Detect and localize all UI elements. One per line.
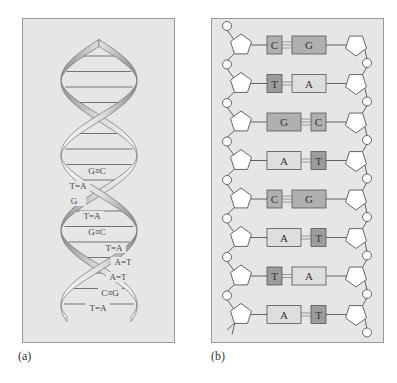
base-letter-right: T (315, 155, 322, 167)
base-letter-right: T (315, 309, 322, 321)
panel-b-ladder-diagram: CGTAGCATCGATTAAT (211, 18, 384, 343)
base-letter-left: T (271, 78, 278, 90)
base-letter-left: G (280, 116, 288, 128)
base-pair-label: G≡C (88, 227, 106, 237)
ladder-shapes: CGTAGCATCGATTAAT (231, 34, 367, 326)
base-pair-label: G (71, 196, 78, 206)
base-pair-row: CG (231, 34, 367, 56)
base-letter-left: A (280, 232, 288, 244)
sugar-pentagon-right (346, 75, 367, 95)
base-pair-label: G≡C (88, 166, 106, 176)
sugar-pentagon-left (231, 265, 252, 285)
base-pair-label: A=T (114, 257, 132, 267)
dna-ladder-illustration: CGTAGCATCGATTAAT (212, 19, 385, 344)
sugar-pentagon-left (231, 304, 252, 324)
base-letter-right: T (315, 232, 322, 244)
sugar-pentagon-right (346, 152, 367, 172)
sugar-pentagon-left (231, 34, 252, 54)
base-pair-label: C≡G (101, 288, 119, 298)
base-pair-row: AT (231, 304, 367, 326)
phosphate-left (223, 176, 232, 185)
base-pair-row: CG (231, 188, 367, 210)
phosphate-left (223, 291, 232, 300)
caption-b: (b) (211, 349, 225, 364)
sugar-pentagon-right (346, 36, 367, 56)
base-letter-left: C (271, 39, 278, 51)
phosphate-right (363, 251, 372, 260)
base-pair-row: AT (231, 227, 367, 249)
base-pair-row: GC (231, 111, 367, 133)
phosphate-right (363, 97, 372, 106)
panel-a-double-helix: G≡CT=AGT=AG≡CT=AA=TA=TC≡GT=A (22, 18, 175, 343)
phosphate-left (223, 214, 232, 223)
sugar-pentagon-right (346, 267, 367, 287)
sugar-pentagon-right (346, 113, 367, 133)
base-pair-row: TA (231, 73, 367, 95)
sugar-pentagon-left (231, 188, 252, 208)
base-letter-left: C (271, 193, 278, 205)
base-pair-row: AT (231, 150, 367, 172)
sugar-pentagon-right (346, 229, 367, 249)
phosphate-right (363, 59, 372, 68)
phosphate-right (363, 174, 372, 183)
sugar-pentagon-left (231, 227, 252, 247)
phosphate-left (223, 22, 232, 31)
base-letter-left: A (280, 309, 288, 321)
base-letter-right: C (315, 116, 322, 128)
phosphate-right (363, 328, 372, 337)
phosphate-left (223, 253, 232, 262)
base-pair-label: T=A (105, 243, 123, 253)
phosphate-left (223, 60, 232, 69)
base-letter-right: G (305, 193, 313, 205)
phosphate-circles (223, 22, 372, 338)
double-helix-illustration: G≡CT=AGT=AG≡CT=AA=TA=TC≡GT=A (23, 19, 176, 344)
base-letter-right: A (305, 78, 313, 90)
sugar-pentagon-right (346, 306, 367, 326)
sugar-pentagon-left (231, 150, 252, 170)
phosphate-right (363, 213, 372, 222)
sugar-pentagon-left (231, 73, 252, 93)
sugar-pentagon-right (346, 190, 367, 210)
phosphate-right (363, 136, 372, 145)
base-pair-row: TA (231, 265, 367, 287)
base-pair-label: T=A (69, 181, 87, 191)
base-pair-label: T=A (83, 211, 101, 221)
base-letter-left: A (280, 155, 288, 167)
base-letter-right: G (305, 39, 313, 51)
sugar-pentagon-left (231, 111, 252, 131)
base-pair-label: T=A (89, 303, 107, 313)
base-letter-right: A (305, 270, 313, 282)
base-letter-left: T (271, 270, 278, 282)
phosphate-left (223, 99, 232, 108)
phosphate-right (363, 290, 372, 299)
base-pair-label: A=T (109, 272, 127, 282)
phosphate-left (223, 137, 232, 146)
base-pair-labels: G≡CT=AGT=AG≡CT=AA=TA=TC≡GT=A (62, 166, 135, 313)
caption-a: (a) (18, 349, 31, 364)
